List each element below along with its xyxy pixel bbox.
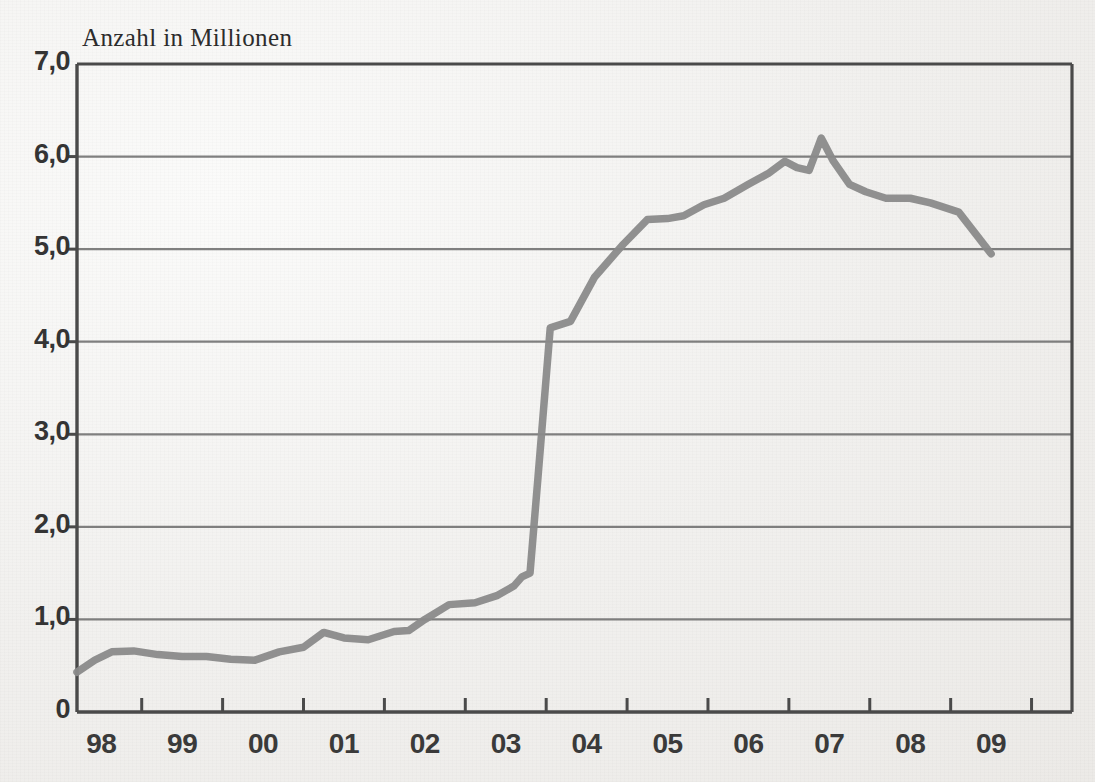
line-chart-plot	[0, 0, 1095, 782]
x-axis-ticks-group	[142, 698, 1032, 712]
x-axis-label-08: 08	[880, 728, 940, 760]
plot-frame-group	[68, 64, 1072, 712]
x-axis-label-07: 07	[799, 728, 859, 760]
y-axis-label-1-0: 1,0	[4, 601, 70, 632]
data-line-anzahl-in-millionen	[77, 138, 991, 672]
x-axis-label-98: 98	[71, 728, 131, 760]
chart-page: Anzahl in Millionen 01,02,03,04,05,06,07…	[0, 0, 1095, 782]
x-axis-label-06: 06	[718, 728, 778, 760]
x-axis-label-04: 04	[557, 728, 617, 760]
x-axis-label-02: 02	[395, 728, 455, 760]
x-axis-label-05: 05	[638, 728, 698, 760]
gridlines-group	[77, 157, 1072, 620]
x-axis-label-01: 01	[314, 728, 374, 760]
data-series-group	[77, 138, 991, 672]
y-axis-label-4-0: 4,0	[4, 324, 70, 355]
y-axis-label-3-0: 3,0	[4, 416, 70, 447]
x-axis-label-03: 03	[476, 728, 536, 760]
y-axis-label-2-0: 2,0	[4, 509, 70, 540]
x-axis-label-09: 09	[961, 728, 1021, 760]
y-axis-label-7-0: 7,0	[4, 46, 70, 77]
y-axis-label-0: 0	[4, 694, 70, 725]
x-axis-label-99: 99	[152, 728, 212, 760]
x-axis-label-00: 00	[233, 728, 293, 760]
y-axis-label-6-0: 6,0	[4, 139, 70, 170]
y-axis-label-5-0: 5,0	[4, 231, 70, 262]
